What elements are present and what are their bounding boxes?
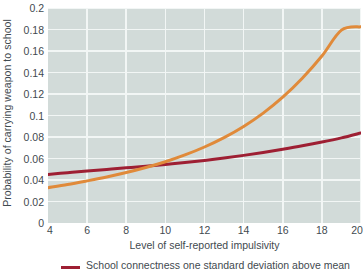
y-axis-tick-label: 0.08 [24, 132, 44, 143]
y-axis-tick-label: 0 [38, 218, 44, 229]
y-axis-tick-label: 0.04 [24, 175, 44, 186]
y-axis-tick-label: 0.1 [29, 110, 44, 121]
y-axis-tick-label: 0.16 [24, 46, 44, 57]
legend-item-label: School connectness one standard deviatio… [86, 259, 350, 271]
series-line-1 [48, 27, 361, 188]
chart-legend: School connectness one standard deviatio… [48, 258, 363, 271]
x-axis-tick-label: 6 [84, 224, 90, 236]
y-axis-title-text: Probability of carrying weapon to school [1, 19, 13, 207]
plot-area [48, 8, 361, 223]
x-axis-tick-label: 16 [277, 224, 289, 236]
x-axis-tick-label: 20 [351, 224, 363, 236]
y-axis-tick-labels: 00.020.040.060.080.10.120.140.160.180.2 [14, 0, 46, 226]
y-axis-title: Probability of carrying weapon to school [0, 0, 14, 226]
series-line-0 [48, 133, 361, 174]
y-axis-tick-label: 0.14 [24, 67, 44, 78]
legend-swatch-icon [61, 266, 80, 270]
x-axis-tick-label: 14 [238, 224, 250, 236]
chart-figure: Probability of carrying weapon to school… [0, 0, 363, 271]
x-axis-title: Level of self-reported impulsivity [48, 239, 361, 251]
x-axis-tick-label: 10 [160, 224, 172, 236]
y-axis-tick-label: 0.18 [24, 24, 44, 35]
x-axis-tick-label: 8 [123, 224, 129, 236]
x-axis-tick-label: 4 [47, 224, 53, 236]
legend-item: School connectness one standard deviatio… [61, 258, 350, 271]
series-lines [48, 8, 361, 223]
y-axis-tick-label: 0.02 [24, 196, 44, 207]
x-axis-tick-label: 18 [316, 224, 328, 236]
x-axis-tick-labels: 468101214161820 [48, 224, 361, 238]
x-axis-tick-label: 12 [199, 224, 211, 236]
y-axis-tick-label: 0.12 [24, 89, 44, 100]
y-axis-tick-label: 0.06 [24, 153, 44, 164]
y-axis-tick-label: 0.2 [29, 3, 44, 14]
